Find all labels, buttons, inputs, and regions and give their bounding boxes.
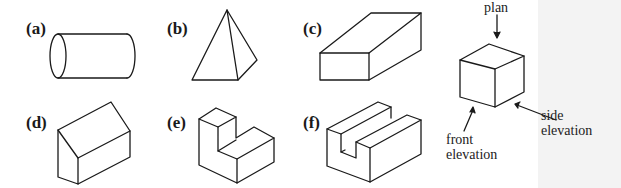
front-elevation-label-line1: front xyxy=(446,132,473,147)
annotated-cube xyxy=(460,44,524,107)
shape-b-label: (b) xyxy=(167,20,188,37)
front-elevation-arrow xyxy=(464,107,475,131)
shape-b-pyramid xyxy=(192,10,257,80)
plan-arrow xyxy=(494,15,500,38)
shape-f-label: (f) xyxy=(303,114,320,131)
shape-c-box xyxy=(320,13,421,80)
shape-d-roofed-block xyxy=(58,102,130,184)
shape-e-label: (e) xyxy=(167,114,186,131)
shape-a-cylinder xyxy=(50,34,135,78)
side-elevation-label-line2: elevation xyxy=(541,123,592,138)
side-elevation-label-line1: side xyxy=(541,108,564,123)
shape-a-label: (a) xyxy=(26,20,46,37)
plan-label: plan xyxy=(484,0,508,15)
front-elevation-label-line2: elevation xyxy=(446,147,497,162)
shape-c-label: (c) xyxy=(303,20,322,37)
shape-f-slotted-block xyxy=(327,102,421,182)
shape-d-label: (d) xyxy=(26,114,47,131)
shape-e-l-block xyxy=(199,108,274,183)
